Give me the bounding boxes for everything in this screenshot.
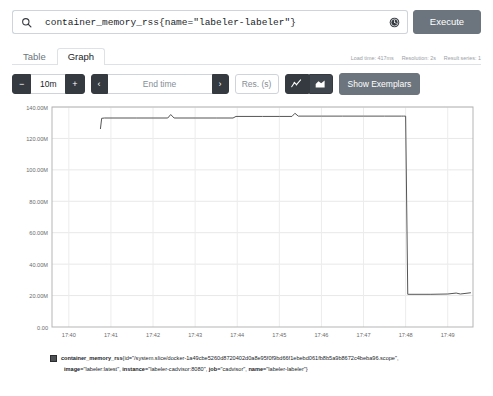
svg-text:17:48: 17:48 (399, 332, 413, 338)
decrease-range-button[interactable]: − (12, 74, 31, 94)
execute-button[interactable]: Execute (413, 10, 481, 34)
graph-panel[interactable]: 0.0020.00M40.00M60.00M80.00M100.00M120.0… (12, 101, 481, 349)
legend-label-value-instance: "labeler-cadvisor:8080" (148, 366, 205, 372)
legend-label-value-image: "labeler:latest" (83, 366, 119, 372)
range-input-group: − 10m + (12, 74, 85, 94)
stat-load-time: Load time: 417ms (351, 55, 394, 61)
svg-text:17:44: 17:44 (230, 332, 244, 338)
result-tabs: Table Graph Load time: 417ms Resolution:… (12, 44, 481, 65)
legend-id-label: {id="/system.slice/docker-1a49cbe5260d87… (123, 355, 399, 361)
legend-closing-brace: } (306, 366, 308, 372)
stat-result-series: Result series: 1 (444, 55, 481, 61)
next-time-button[interactable]: › (212, 74, 229, 94)
history-clock-icon[interactable] (381, 10, 408, 34)
svg-text:17:41: 17:41 (104, 332, 118, 338)
query-bar: Execute (12, 10, 481, 34)
svg-text:140.00M: 140.00M (26, 105, 48, 111)
chart-type-toggle (285, 74, 333, 94)
svg-text:80.00M: 80.00M (29, 199, 48, 205)
range-value[interactable]: 10m (31, 74, 65, 94)
resolution-input[interactable]: Res. (s) (235, 74, 279, 94)
end-time-input[interactable]: End time (108, 74, 212, 94)
svg-text:17:46: 17:46 (314, 332, 328, 338)
graph-legend: container_memory_rss{id="/system.slice/d… (12, 353, 481, 374)
svg-text:120.00M: 120.00M (26, 136, 48, 142)
tab-graph[interactable]: Graph (57, 48, 105, 65)
legend-item-line2[interactable]: image="labeler:latest", instance="labele… (50, 364, 481, 375)
stacked-area-chart-icon[interactable] (309, 74, 333, 94)
legend-color-swatch (50, 355, 57, 362)
line-chart-icon[interactable] (285, 74, 309, 94)
svg-text:17:40: 17:40 (62, 332, 76, 338)
graph-canvas[interactable]: 0.0020.00M40.00M60.00M80.00M100.00M120.0… (12, 101, 481, 349)
svg-text:20.00M: 20.00M (29, 293, 48, 299)
legend-label-key-name: name (248, 366, 263, 372)
increase-range-button[interactable]: + (65, 74, 84, 94)
legend-label-value-job: "cadvisor" (220, 366, 245, 372)
legend-label-key-instance: instance (122, 366, 145, 372)
show-exemplars-button[interactable]: Show Exemplars (339, 73, 421, 95)
svg-text:17:42: 17:42 (146, 332, 160, 338)
legend-label-key-image: image (64, 366, 80, 372)
svg-text:17:45: 17:45 (272, 332, 286, 338)
svg-text:60.00M: 60.00M (29, 230, 48, 236)
end-time-group: ‹ End time › (91, 74, 229, 94)
prometheus-graph-page: Execute Table Graph Load time: 417ms Res… (0, 0, 493, 396)
svg-text:17:47: 17:47 (357, 332, 371, 338)
stat-resolution: Resolution: 2s (402, 55, 436, 61)
legend-label-key-job: job (209, 366, 217, 372)
previous-time-button[interactable]: ‹ (91, 74, 108, 94)
search-icon (12, 10, 39, 34)
legend-label-value-name: "labeler-labeler" (266, 366, 305, 372)
svg-text:17:49: 17:49 (441, 332, 455, 338)
legend-metric-name: container_memory_rss (61, 355, 123, 361)
svg-text:17:43: 17:43 (188, 332, 202, 338)
legend-item-line1[interactable]: container_memory_rss{id="/system.slice/d… (50, 353, 481, 364)
tab-table[interactable]: Table (12, 48, 57, 65)
svg-text:0.00: 0.00 (37, 325, 48, 331)
query-stats: Load time: 417ms Resolution: 2s Result s… (351, 55, 481, 61)
graph-controls-toolbar: − 10m + ‹ End time › Res. (s) (12, 74, 481, 94)
query-input[interactable] (39, 10, 381, 34)
svg-text:40.00M: 40.00M (29, 262, 48, 268)
svg-text:100.00M: 100.00M (26, 167, 48, 173)
